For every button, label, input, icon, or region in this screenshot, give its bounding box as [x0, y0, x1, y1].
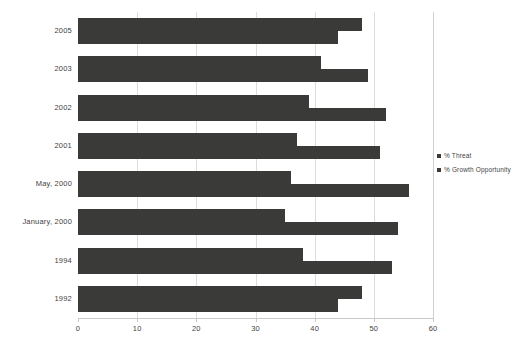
bar-threat: [78, 209, 285, 222]
legend-item-threat: % Threat: [437, 152, 511, 159]
legend-swatch-threat: [437, 154, 441, 158]
x-tick-label-30: 30: [251, 324, 260, 333]
category-label: 2005: [0, 26, 72, 35]
bar-growth-opportunity: [78, 146, 380, 159]
legend-item-growth-opportunity: % Growth Opportunity: [437, 166, 511, 173]
bar-growth-opportunity: [78, 222, 398, 235]
bar-growth-opportunity: [78, 299, 338, 312]
bar-growth-opportunity: [78, 261, 392, 274]
legend-label-threat: % Threat: [444, 152, 471, 159]
category-label: 2001: [0, 141, 72, 150]
x-tick-label-50: 50: [369, 324, 378, 333]
x-tick-label-0: 0: [76, 324, 80, 333]
legend-label-growth-opportunity: % Growth Opportunity: [444, 166, 511, 173]
bar-group: [0, 248, 527, 274]
bar-group: [0, 18, 527, 44]
x-tick-label-60: 60: [429, 324, 438, 333]
bar-threat: [78, 248, 303, 261]
category-label: May, 2000: [0, 179, 72, 188]
bar-growth-opportunity: [78, 108, 386, 121]
x-tick-label-10: 10: [133, 324, 142, 333]
bar-threat: [78, 286, 362, 299]
category-label: 1992: [0, 294, 72, 303]
bar-group: [0, 286, 527, 312]
x-axis-line: [78, 318, 434, 319]
bar-group: [0, 209, 527, 235]
category-label: January, 2000: [0, 217, 72, 226]
bar-group: [0, 56, 527, 82]
bar-chart: 2005200320022001May, 2000January, 200019…: [0, 0, 527, 354]
bar-growth-opportunity: [78, 31, 338, 44]
legend-swatch-growth-opportunity: [437, 168, 441, 172]
x-tick-label-40: 40: [310, 324, 319, 333]
bar-growth-opportunity: [78, 69, 368, 82]
bar-group: [0, 95, 527, 121]
category-label: 1994: [0, 256, 72, 265]
category-label: 2003: [0, 64, 72, 73]
bar-growth-opportunity: [78, 184, 409, 197]
bar-threat: [78, 56, 321, 69]
bar-threat: [78, 171, 291, 184]
bar-threat: [78, 95, 309, 108]
category-label: 2002: [0, 103, 72, 112]
x-tick-label-20: 20: [192, 324, 201, 333]
bar-threat: [78, 133, 297, 146]
chart-legend: % Threat % Growth Opportunity: [437, 152, 511, 180]
bar-threat: [78, 18, 362, 31]
